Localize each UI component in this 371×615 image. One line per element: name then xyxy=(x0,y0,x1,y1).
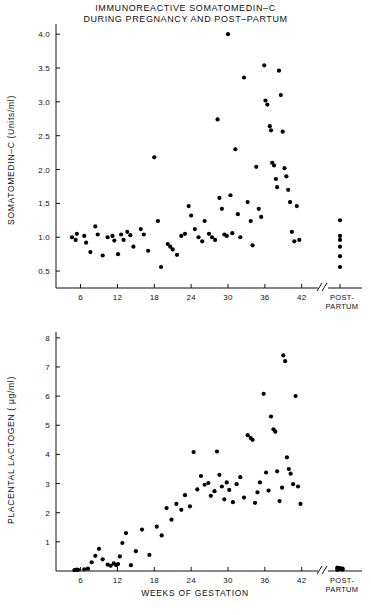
panel-somatomedin-data-point xyxy=(297,238,301,242)
panel-somatomedin-data-point xyxy=(262,63,266,67)
panel-placental-lactogen-data-point xyxy=(124,531,128,535)
panel-somatomedin-data-point xyxy=(254,165,258,169)
panel-placental-lactogen-data-point xyxy=(222,497,226,501)
panel-placental-lactogen-data-point xyxy=(275,469,279,473)
panel-somatomedin-postpartum-data-point xyxy=(338,218,342,222)
panel-somatomedin-data-point xyxy=(257,207,261,211)
panel-somatomedin-data-point xyxy=(277,69,281,73)
panel-somatomedin-y-tick-label: 2.0 xyxy=(38,166,50,175)
panel-somatomedin-data-point xyxy=(217,196,221,200)
panel-somatomedin-data-point xyxy=(203,219,207,223)
panel-placental-lactogen-data-point xyxy=(246,433,250,437)
panel-somatomedin-data-point xyxy=(121,238,125,242)
panel-somatomedin-x-tick-label: 30 xyxy=(223,293,233,302)
panel-somatomedin-data-point xyxy=(275,185,279,189)
panel-placental-lactogen-data-point xyxy=(242,495,246,499)
panel-somatomedin-data-point xyxy=(187,204,191,208)
panel-placental-lactogen-data-point xyxy=(97,547,101,551)
panel-placental-lactogen-data-point xyxy=(269,414,273,418)
panel-somatomedin-data-point xyxy=(246,200,250,204)
panel-placental-lactogen-y-tick-label: 4 xyxy=(45,450,50,459)
panel-placental-lactogen-x-tick-label: 12 xyxy=(113,576,123,585)
panel-placental-lactogen-data-point xyxy=(253,501,257,505)
panel-placental-lactogen-data-point xyxy=(183,493,187,497)
panel-somatomedin-data-point xyxy=(274,177,278,181)
panel-placental-lactogen-y-tick-label: 3 xyxy=(45,480,50,489)
panel-somatomedin-data-point xyxy=(146,249,150,253)
panel-placental-lactogen-data-point xyxy=(255,490,259,494)
panel-placental-lactogen-x-tick-label: 30 xyxy=(223,576,233,585)
panel-somatomedin-data-point xyxy=(159,265,163,269)
panel-somatomedin-data-point xyxy=(116,252,120,256)
panel-somatomedin-x-tick-label: 6 xyxy=(78,293,83,302)
panel-somatomedin-y-tick-label: 1.5 xyxy=(38,199,50,208)
panel-somatomedin-data-point xyxy=(196,235,200,239)
panel-placental-lactogen-data-point xyxy=(76,568,80,572)
panel-placental-lactogen-x-tick-label: 18 xyxy=(150,576,160,585)
panel-placental-lactogen-postpartum-data-point xyxy=(341,567,345,571)
panel-placental-lactogen-data-point xyxy=(250,438,254,442)
panel-placental-lactogen-data-point xyxy=(227,488,231,492)
panel-somatomedin-data-point xyxy=(70,235,74,239)
panel-somatomedin-data-point xyxy=(269,128,273,132)
panel-placental-lactogen-data-point xyxy=(266,488,270,492)
panel-placental-lactogen-postpartum-label-2: PARTUM xyxy=(326,585,359,594)
panel-placental-lactogen-postpartum-data-point xyxy=(335,568,339,572)
panel-placental-lactogen-data-point xyxy=(203,483,207,487)
panel-somatomedin-data-point xyxy=(290,230,294,234)
panel-placental-lactogen-data-point xyxy=(82,567,86,571)
panel-placental-lactogen-data-point xyxy=(217,473,221,477)
figure-title: IMMUNOREACTIVE SOMATOMEDIN–C DURING PREG… xyxy=(0,3,371,25)
panel-placental-lactogen-data-point xyxy=(93,554,97,558)
panel-placental-lactogen-y-tick-label: 1 xyxy=(45,538,50,547)
panel-somatomedin-data-point xyxy=(139,227,143,231)
panel-placental-lactogen-data-point xyxy=(140,528,144,532)
panel-somatomedin-x-tick-label: 42 xyxy=(297,293,307,302)
panel-placental-lactogen-data-point xyxy=(116,562,120,566)
panel-placental-lactogen-data-point xyxy=(134,549,138,553)
panel-somatomedin-data-point xyxy=(175,253,179,257)
panel-somatomedin-y-tick-label: 1.0 xyxy=(38,233,50,242)
panel-placental-lactogen-data-point xyxy=(101,557,105,561)
panel-somatomedin-data-point xyxy=(286,188,290,192)
panel-placental-lactogen-data-point xyxy=(212,489,216,493)
panel-somatomedin-data-point xyxy=(101,253,105,257)
panel-somatomedin-y-axis-title: SOMATOMEDIN–C (Units/ml) xyxy=(6,95,16,225)
panel-placental-lactogen-data-point xyxy=(280,486,284,490)
panel-somatomedin-data-point xyxy=(131,245,135,249)
panel-placental-lactogen-data-point xyxy=(235,482,239,486)
panel-placental-lactogen-data-point xyxy=(129,563,133,567)
panel-placental-lactogen-data-point xyxy=(199,474,203,478)
panel-somatomedin-x-tick-label: 12 xyxy=(113,293,123,302)
panel-placental-lactogen-data-point xyxy=(147,553,151,557)
panel-somatomedin-data-point xyxy=(236,212,240,216)
panel-somatomedin-data-point xyxy=(259,215,263,219)
panel-somatomedin-data-point xyxy=(220,207,224,211)
panel-somatomedin-data-point xyxy=(207,232,211,236)
panel-placental-lactogen-x-tick-label: 6 xyxy=(78,576,83,585)
panel-somatomedin-data-point xyxy=(226,32,230,36)
panel-somatomedin-y-tick-label: 3.0 xyxy=(38,98,50,107)
panel-somatomedin-data-point xyxy=(96,232,100,236)
panel-somatomedin-postpartum-data-point xyxy=(338,245,342,249)
panel-placental-lactogen-y-tick-label: 7 xyxy=(45,363,50,372)
panel-placental-lactogen-data-point xyxy=(278,499,282,503)
panel-placental-lactogen-y-tick-label: 5 xyxy=(45,421,50,430)
panel-placental-lactogen-data-point xyxy=(281,353,285,357)
panel-somatomedin-data-point xyxy=(215,117,219,121)
panel-placental-lactogen-data-point xyxy=(209,494,213,498)
panel-placental-lactogen-data-point xyxy=(283,359,287,363)
panel-placental-lactogen-data-point xyxy=(179,508,183,512)
figure-container: IMMUNOREACTIVE SOMATOMEDIN–C DURING PREG… xyxy=(0,0,371,615)
panel-somatomedin-data-point xyxy=(272,163,276,167)
panel-placental-lactogen-data-point xyxy=(289,472,293,476)
panel-placental-lactogen-data-point xyxy=(287,467,291,471)
panel-placental-lactogen-data-point xyxy=(296,484,300,488)
panel-placental-lactogen-x-tick-label: 42 xyxy=(297,576,307,585)
panel-placental-lactogen-data-point xyxy=(206,481,210,485)
panel-somatomedin-postpartum-label-1: POST- xyxy=(330,293,354,302)
panel-somatomedin-data-point xyxy=(128,233,132,237)
panel-placental-lactogen-data-point xyxy=(264,470,268,474)
panel-somatomedin-data-point xyxy=(281,130,285,134)
panel-somatomedin-data-point xyxy=(110,234,114,238)
